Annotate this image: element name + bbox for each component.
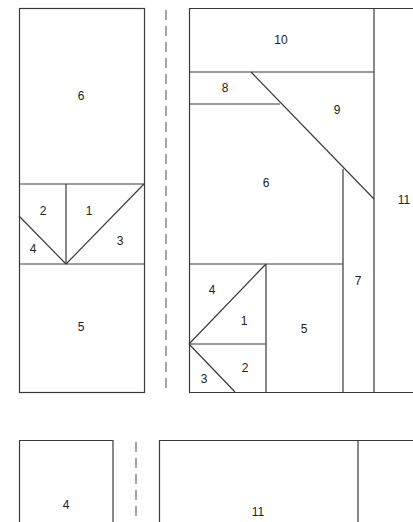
piece-label: 5 <box>301 322 308 336</box>
piece-label: 4 <box>209 283 216 297</box>
piece-label: 8 <box>222 81 229 95</box>
piece-label: 2 <box>40 204 47 218</box>
piece-label: 1 <box>241 314 248 328</box>
piece-label: 1 <box>86 204 93 218</box>
piece-label: 11 <box>252 505 264 519</box>
left-panel <box>19 9 145 393</box>
piece-label: 3 <box>117 234 124 248</box>
piece-label: 7 <box>355 274 362 288</box>
cutting-diagram <box>0 0 413 522</box>
bottom-right-panel <box>159 440 413 522</box>
piece-label: 10 <box>274 33 287 47</box>
piece-label: 2 <box>242 361 249 375</box>
piece-label: 4 <box>63 498 70 512</box>
piece-label: 11 <box>398 193 410 207</box>
piece-label: 6 <box>78 89 85 103</box>
piece-label: 5 <box>78 320 85 334</box>
piece-label: 4 <box>30 242 37 256</box>
piece-label: 9 <box>334 103 341 117</box>
piece-label: 3 <box>201 372 208 386</box>
piece-label: 6 <box>263 176 270 190</box>
